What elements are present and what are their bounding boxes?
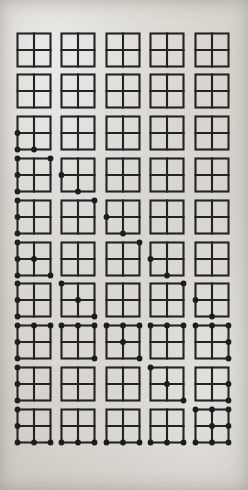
dot-bottom-left — [14, 356, 20, 362]
dot-top-middle — [75, 323, 81, 329]
figure-2-2[interactable] — [57, 70, 99, 112]
figure-8-1[interactable] — [13, 321, 55, 363]
dot-top-right — [136, 239, 142, 245]
figure-7-2[interactable] — [57, 279, 99, 321]
figure-3-3[interactable] — [102, 112, 144, 154]
dot-top-left — [14, 406, 20, 412]
figure-10-5[interactable] — [191, 405, 233, 447]
figure-10-1[interactable] — [13, 405, 55, 447]
figure-9-2[interactable] — [57, 363, 99, 405]
square-figure — [102, 112, 144, 154]
dot-middle-left — [192, 297, 198, 303]
figure-4-3[interactable] — [102, 154, 144, 196]
dot-bottom-middle — [164, 439, 170, 445]
figure-5-4[interactable] — [146, 196, 188, 238]
dot-bottom-right — [92, 439, 98, 445]
dot-bottom-right — [136, 439, 142, 445]
figure-3-4[interactable] — [146, 112, 188, 154]
dot-top-middle — [31, 323, 37, 329]
figure-1-2[interactable] — [57, 29, 99, 71]
square-figure — [102, 238, 144, 280]
dot-top-right — [92, 323, 98, 329]
figure-1-4[interactable] — [146, 29, 188, 71]
dot-top-left — [148, 364, 154, 370]
figure-5-1[interactable] — [13, 196, 55, 238]
square-figure — [57, 279, 99, 321]
figure-2-4[interactable] — [146, 70, 188, 112]
figure-9-3[interactable] — [102, 363, 144, 405]
dot-middle-left — [59, 172, 65, 178]
square-figure — [102, 363, 144, 405]
figure-5-3[interactable] — [102, 196, 144, 238]
square-figure — [57, 154, 99, 196]
figure-10-2[interactable] — [57, 405, 99, 447]
dot-bottom-right — [181, 439, 187, 445]
figure-5-2[interactable] — [57, 196, 99, 238]
square-figure — [146, 363, 188, 405]
figure-8-3[interactable] — [102, 321, 144, 363]
figure-3-2[interactable] — [57, 112, 99, 154]
figure-8-4[interactable] — [146, 321, 188, 363]
square-figure — [57, 363, 99, 405]
figure-6-5[interactable] — [191, 238, 233, 280]
dot-center — [209, 423, 215, 429]
figure-7-3[interactable] — [102, 279, 144, 321]
figure-6-1[interactable] — [13, 238, 55, 280]
figure-2-3[interactable] — [102, 70, 144, 112]
dot-bottom-left — [103, 439, 109, 445]
square-figure — [57, 70, 99, 112]
figure-1-5[interactable] — [191, 29, 233, 71]
figure-4-1[interactable] — [13, 154, 55, 196]
dot-middle-left — [14, 172, 20, 178]
figure-1-3[interactable] — [102, 29, 144, 71]
square-figure — [146, 279, 188, 321]
figure-6-2[interactable] — [57, 238, 99, 280]
dot-top-right — [225, 323, 231, 329]
figure-10-3[interactable] — [102, 405, 144, 447]
figure-7-4[interactable] — [146, 279, 188, 321]
dot-middle-left — [14, 297, 20, 303]
dot-bottom-left — [192, 439, 198, 445]
square-figure — [57, 238, 99, 280]
figure-4-4[interactable] — [146, 154, 188, 196]
dot-bottom-left — [14, 439, 20, 445]
figure-9-5[interactable] — [191, 363, 233, 405]
figure-3-5[interactable] — [191, 112, 233, 154]
figure-7-5[interactable] — [191, 279, 233, 321]
dot-middle-left — [148, 256, 154, 262]
figure-2-1[interactable] — [13, 70, 55, 112]
dot-bottom-right — [181, 397, 187, 403]
figure-9-1[interactable] — [13, 363, 55, 405]
figure-10-4[interactable] — [146, 405, 188, 447]
figure-8-2[interactable] — [57, 321, 99, 363]
square-figure — [102, 29, 144, 71]
figure-9-4[interactable] — [146, 363, 188, 405]
dot-top-left — [59, 281, 65, 287]
dot-bottom-middle — [164, 272, 170, 278]
dot-bottom-right — [225, 439, 231, 445]
square-figure — [191, 29, 233, 71]
figure-8-5[interactable] — [191, 321, 233, 363]
dot-bottom-right — [136, 356, 142, 362]
figure-6-3[interactable] — [102, 238, 144, 280]
figure-sheet — [0, 0, 248, 490]
dot-bottom-right — [225, 397, 231, 403]
figure-2-5[interactable] — [191, 70, 233, 112]
figure-3-1[interactable] — [13, 112, 55, 154]
dot-bottom-left — [14, 230, 20, 236]
figure-1-1[interactable] — [13, 29, 55, 71]
figure-5-5[interactable] — [191, 196, 233, 238]
square-figure — [102, 279, 144, 321]
dot-top-right — [92, 197, 98, 203]
figure-4-2[interactable] — [57, 154, 99, 196]
dot-top-middle — [209, 406, 215, 412]
figure-7-1[interactable] — [13, 279, 55, 321]
dot-middle-left — [14, 214, 20, 220]
figure-6-4[interactable] — [146, 238, 188, 280]
square-figure — [191, 196, 233, 238]
dot-top-right — [225, 406, 231, 412]
figure-4-5[interactable] — [191, 154, 233, 196]
dot-middle-left — [14, 339, 20, 345]
square-figure — [13, 321, 55, 363]
dot-top-left — [14, 197, 20, 203]
